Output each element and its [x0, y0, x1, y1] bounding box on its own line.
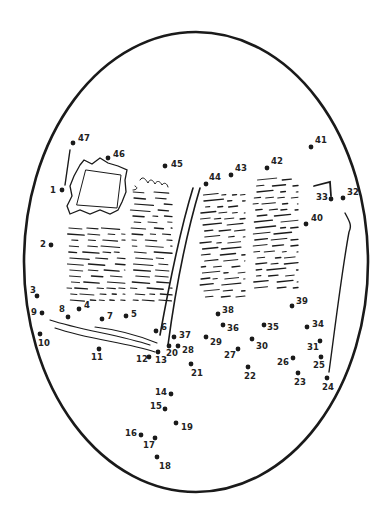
text-line — [271, 238, 287, 240]
text-line — [220, 254, 235, 256]
dot-18[interactable] — [155, 455, 160, 460]
text-line — [75, 288, 88, 289]
text-line — [238, 272, 245, 273]
text-line — [293, 288, 298, 289]
dot-24[interactable] — [325, 376, 330, 381]
dot-4[interactable] — [77, 307, 82, 312]
dot-30[interactable] — [250, 337, 255, 342]
dot-32[interactable] — [341, 196, 346, 201]
dot-10[interactable] — [38, 332, 43, 337]
dot-41[interactable] — [309, 145, 314, 150]
dot-13[interactable] — [156, 350, 161, 355]
dot-6[interactable] — [154, 329, 159, 334]
text-line — [159, 264, 168, 265]
dot-14[interactable] — [169, 392, 174, 397]
dot-label-1: 1 — [50, 186, 56, 195]
dot-25[interactable] — [319, 355, 324, 360]
text-line — [157, 282, 169, 283]
dot-11[interactable] — [97, 347, 102, 352]
text-line — [264, 251, 274, 252]
dot-27[interactable] — [236, 347, 241, 352]
book-sketch — [50, 150, 350, 372]
dot-15[interactable] — [163, 407, 168, 412]
dot-label-39: 39 — [296, 297, 308, 306]
text-line — [283, 204, 288, 205]
text-line — [155, 276, 168, 277]
dot-35[interactable] — [262, 323, 267, 328]
text-line — [257, 190, 273, 192]
text-line — [97, 288, 103, 289]
dot-label-31: 31 — [307, 343, 319, 352]
dot-22[interactable] — [246, 365, 251, 370]
text-line — [282, 179, 291, 180]
page-bottom-curve-1 — [50, 320, 150, 345]
text-line — [158, 210, 168, 211]
dot-1[interactable] — [60, 188, 65, 193]
text-line — [203, 248, 218, 250]
text-line — [201, 278, 210, 279]
dot-label-10: 10 — [38, 339, 50, 348]
text-line — [135, 204, 154, 205]
dot-29[interactable] — [204, 335, 209, 340]
text-line — [133, 216, 144, 217]
dot-23[interactable] — [296, 371, 301, 376]
dot-label-19: 19 — [181, 423, 193, 432]
dot-34[interactable] — [305, 325, 310, 330]
text-line — [111, 276, 123, 277]
text-line — [256, 226, 276, 228]
dot-label-8: 8 — [59, 305, 65, 314]
dot-7[interactable] — [100, 317, 105, 322]
dot-47[interactable] — [71, 141, 76, 146]
dot-40[interactable] — [304, 222, 309, 227]
text-line — [255, 287, 268, 288]
text-line — [134, 252, 146, 253]
puzzle-canvas — [0, 0, 387, 522]
text-line — [205, 230, 213, 231]
dot-26[interactable] — [291, 356, 296, 361]
text-line — [257, 257, 265, 258]
text-line — [134, 270, 151, 271]
dot-label-3: 3 — [30, 286, 36, 295]
dot-39[interactable] — [290, 304, 295, 309]
text-line — [136, 276, 150, 277]
text-line — [117, 258, 125, 259]
text-line — [103, 240, 118, 241]
dot-label-14: 14 — [155, 388, 167, 397]
dot-44[interactable] — [204, 182, 209, 187]
dot-19[interactable] — [174, 421, 179, 426]
dot-5[interactable] — [124, 314, 129, 319]
dot-21[interactable] — [189, 362, 194, 367]
text-line — [119, 288, 125, 289]
text-line — [284, 263, 298, 264]
text-line — [159, 300, 171, 301]
text-line — [221, 296, 230, 297]
text-line — [146, 246, 164, 247]
text-line — [108, 234, 115, 235]
text-line — [164, 204, 172, 205]
dot-37[interactable] — [172, 335, 177, 340]
text-line — [156, 270, 169, 271]
dot-label-37: 37 — [179, 331, 191, 340]
dot-45[interactable] — [163, 164, 168, 169]
dot-2[interactable] — [49, 243, 54, 248]
text-line — [281, 192, 286, 193]
dot-9[interactable] — [40, 311, 45, 316]
text-line — [291, 239, 298, 240]
dot-43[interactable] — [229, 173, 234, 178]
text-line — [284, 257, 295, 258]
text-line — [148, 222, 157, 223]
text-line — [136, 258, 153, 259]
dot-16[interactable] — [139, 433, 144, 438]
dot-33[interactable] — [329, 197, 334, 202]
text-line — [223, 290, 232, 291]
dot-36[interactable] — [221, 323, 226, 328]
dot-42[interactable] — [265, 166, 270, 171]
text-line — [201, 212, 216, 214]
dot-8[interactable] — [66, 315, 71, 320]
dot-46[interactable] — [106, 156, 111, 161]
text-line — [154, 252, 172, 253]
text-line — [253, 232, 270, 234]
dot-38[interactable] — [216, 312, 221, 317]
text-line — [202, 271, 219, 273]
text-line — [132, 234, 143, 235]
